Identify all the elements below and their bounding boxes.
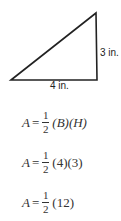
numerator: 1	[43, 110, 49, 121]
equation-3: A = 12 (12)	[22, 190, 74, 215]
eq-lhs: A	[22, 115, 30, 131]
eq-lhs: A	[22, 195, 30, 211]
eq-rhs: (B)(H)	[52, 115, 87, 131]
eq-rhs: (4)(3)	[52, 155, 82, 171]
eq-lhs: A	[22, 155, 30, 171]
eq-sign: =	[32, 155, 39, 171]
numerator: 1	[43, 150, 49, 161]
numerator: 1	[43, 190, 49, 201]
eq-sign: =	[32, 195, 39, 211]
denominator: 2	[43, 124, 49, 135]
equation-1: A = 12 (B)(H)	[22, 110, 87, 135]
height-label: 3 in.	[100, 47, 119, 58]
right-triangle	[0, 0, 121, 90]
base-label: 4 in.	[50, 80, 69, 91]
fraction: 12	[42, 190, 49, 215]
fraction: 12	[42, 150, 49, 175]
denominator: 2	[43, 204, 49, 215]
fraction: 12	[42, 110, 49, 135]
denominator: 2	[43, 164, 49, 175]
eq-sign: =	[32, 115, 39, 131]
equation-2: A = 12 (4)(3)	[22, 150, 83, 175]
eq-rhs: (12)	[52, 195, 74, 211]
